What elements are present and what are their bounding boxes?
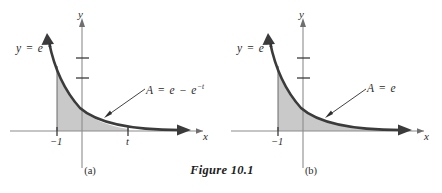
area-label-lhs-b: A bbox=[367, 82, 374, 94]
figure-10-1: y = e−x A = e − e−t y x −1 t (a) bbox=[0, 0, 442, 193]
area-label-term1-b: e bbox=[390, 82, 396, 94]
curve-arrowhead-right-a bbox=[177, 125, 191, 136]
shaded-area-a bbox=[57, 66, 128, 131]
x-tick-label-t-a: t bbox=[126, 136, 129, 147]
y-axis-label-a: y bbox=[78, 8, 83, 20]
area-label-a: A = e − e−t bbox=[146, 82, 204, 96]
curve-label-exponent-b: −x bbox=[265, 40, 273, 49]
curve-equation-label-a: y = e−x bbox=[16, 40, 52, 54]
area-label-term1-a: e bbox=[169, 84, 175, 96]
area-label-term2-exponent-a: −t bbox=[197, 82, 204, 91]
curve-label-lhs-b: y bbox=[237, 42, 243, 54]
area-leader-arrowhead-a bbox=[104, 111, 112, 119]
area-label-eq-a: = bbox=[157, 84, 166, 96]
area-label-lhs-a: A bbox=[146, 84, 153, 96]
curve-label-lhs-a: y bbox=[16, 42, 22, 54]
panel-sublabel-b: (b) bbox=[299, 165, 323, 176]
area-label-b: A = e bbox=[367, 82, 396, 94]
x-axis-label-b: x bbox=[424, 130, 429, 142]
area-leader-line-a bbox=[108, 89, 145, 115]
area-leader-arrowhead-b bbox=[325, 111, 333, 119]
shaded-area-b bbox=[278, 66, 401, 131]
x-axis-arrowhead-a bbox=[196, 128, 203, 134]
area-label-eq-b: = bbox=[378, 82, 387, 94]
curve-label-eq-a: = bbox=[25, 42, 34, 54]
panel-sublabel-a: (a) bbox=[78, 165, 102, 176]
x-axis-label-a: x bbox=[203, 130, 208, 142]
area-leader-line-b bbox=[329, 89, 366, 115]
x-tick-label-minus1-b: −1 bbox=[271, 136, 283, 147]
y-axis-label-b: y bbox=[299, 8, 304, 20]
x-tick-label-minus1-a: −1 bbox=[50, 136, 62, 147]
curve-label-exponent-a: −x bbox=[44, 40, 52, 49]
area-label-op-a: − bbox=[179, 84, 188, 96]
figure-caption: Figure 10.1 bbox=[186, 163, 258, 178]
x-axis-arrowhead-b bbox=[417, 128, 424, 134]
curve-arrowhead-right-b bbox=[398, 125, 412, 136]
curve-equation-label-b: y = e−x bbox=[237, 40, 273, 54]
curve-label-eq-b: = bbox=[246, 42, 255, 54]
